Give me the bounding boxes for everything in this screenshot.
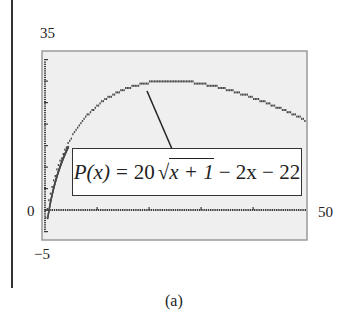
- square-root: √x + 1: [158, 160, 214, 185]
- formula-lhs: P(x): [74, 160, 110, 185]
- formula-coefficient: 20: [134, 160, 155, 185]
- plot-frame: [42, 51, 307, 240]
- radical-sign-icon: √: [158, 160, 170, 184]
- figure-caption: (a): [165, 292, 183, 310]
- formula-equals: =: [116, 160, 128, 185]
- formula-callout: P(x) = 20 √x + 1 − 2x − 22: [72, 148, 302, 196]
- x-max-label: 50: [318, 205, 333, 220]
- y-zero-label: 0: [27, 204, 35, 219]
- formula-radicand: x + 1: [169, 158, 214, 184]
- y-min-label: −5: [34, 247, 50, 262]
- formula-rest: − 2x − 22: [219, 160, 300, 185]
- y-max-label: 35: [40, 26, 55, 41]
